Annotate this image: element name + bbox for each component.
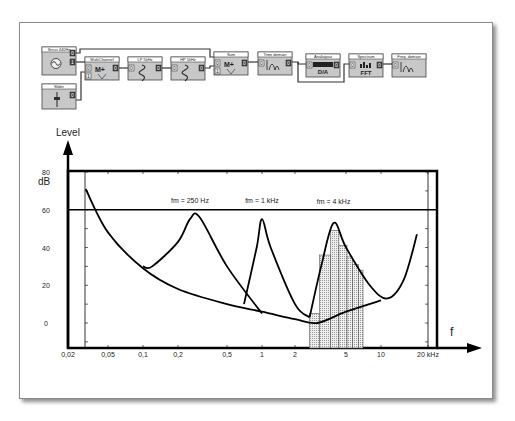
block-freq[interactable]: Freq. domain0 — [392, 54, 426, 77]
svg-text:0: 0 — [157, 65, 160, 71]
svg-text:0: 0 — [260, 60, 263, 66]
annotations: fm = 250 Hzfm = 1 kHzfm = 4 kHz — [171, 197, 351, 205]
block-title: HP 1kHz — [180, 57, 196, 62]
svg-text:0: 0 — [87, 65, 90, 71]
block-title: Slider — [54, 84, 65, 89]
annotation-label: fm = 250 Hz — [171, 197, 209, 204]
block-analog[interactable]: AnalogoutD/A00 — [306, 54, 340, 77]
y-tick-label: 40 — [42, 245, 50, 252]
svg-text:1: 1 — [87, 73, 90, 79]
svg-text:0: 0 — [394, 62, 397, 68]
block-title: Sum — [227, 52, 236, 57]
x-tick-label: 2 — [293, 351, 297, 358]
masking-chart: 806040200 0,020,050,10,20,51251020 kHz f… — [38, 127, 482, 358]
x-tick-label: 0,02 — [61, 351, 75, 358]
svg-text:0: 0 — [378, 62, 381, 68]
spectrum-bar — [310, 314, 320, 348]
x-tick-label: 0,2 — [173, 351, 183, 358]
svg-text:M+: M+ — [95, 66, 105, 73]
y-unit-label: dB — [38, 176, 51, 187]
spectrum-bar — [347, 257, 353, 348]
y-tick-label: 0 — [44, 320, 48, 327]
svg-text:0: 0 — [351, 62, 354, 68]
svg-text:M+: M+ — [224, 61, 234, 68]
block-title: LP 5kHz — [137, 57, 152, 62]
x-tick-label: 0,05 — [101, 351, 115, 358]
block-title: Sinus 440Hz — [48, 47, 71, 52]
sine-generator-icon — [51, 59, 61, 69]
annotation-label: fm = 1 kHz — [245, 197, 279, 204]
svg-text:0: 0 — [130, 65, 133, 71]
figure-canvas: Sinus 440Hz01Slider0MultiChannelM+010LP … — [0, 0, 515, 421]
x-tick-label: 20 kHz — [417, 351, 439, 358]
svg-text:0: 0 — [335, 62, 338, 68]
y-axis-label: Level — [56, 127, 80, 138]
svg-text:0: 0 — [243, 60, 246, 66]
curve-masking-fm-250-hz — [143, 213, 262, 313]
svg-text:0: 0 — [71, 92, 74, 98]
x-tick-label: 0,1 — [138, 351, 148, 358]
svg-text:0: 0 — [200, 65, 203, 71]
x-tick-label: 10 — [377, 351, 385, 358]
block-lp[interactable]: LP 5kHz00 — [128, 57, 162, 81]
spectrum-bar — [339, 246, 347, 348]
spectrum-bars — [310, 231, 363, 348]
svg-text:0: 0 — [71, 50, 74, 56]
x-axis-label: f — [450, 325, 454, 339]
svg-text:0: 0 — [216, 60, 219, 66]
svg-text:0: 0 — [173, 65, 176, 71]
block-title: Time domain — [264, 52, 287, 57]
x-tick-label: 1 — [260, 351, 264, 358]
annotation-label: fm = 4 kHz — [317, 198, 351, 205]
block-hp[interactable]: HP 1kHz00 — [171, 57, 205, 81]
svg-text:0: 0 — [308, 62, 311, 68]
y-tick-label: 80 — [42, 169, 50, 176]
svg-text:0: 0 — [287, 60, 290, 66]
block-fft[interactable]: SpectrumFFT00 — [349, 54, 383, 77]
block-diagram: Sinus 440Hz01Slider0MultiChannelM+010LP … — [42, 47, 426, 109]
block-slider[interactable]: Slider0 — [42, 84, 76, 109]
y-tick-label: 60 — [42, 207, 50, 214]
y-arrowhead-icon — [63, 140, 73, 155]
spectrum-bar — [353, 264, 359, 348]
x-tick-label: 5 — [344, 351, 348, 358]
block-sum[interactable]: SumM+010 — [214, 52, 248, 75]
svg-text:FFT: FFT — [361, 70, 372, 76]
y-ticks: 806040200 — [42, 169, 428, 342]
svg-text:1: 1 — [71, 59, 74, 65]
block-multichannel[interactable]: MultiChannelM+010 — [85, 57, 119, 80]
x-arrowhead-icon — [467, 343, 482, 353]
x-tick-label: 0,5 — [222, 351, 232, 358]
y-tick-label: 20 — [42, 282, 50, 289]
svg-text:1: 1 — [216, 68, 219, 74]
block-title: Freq. domain — [397, 54, 421, 59]
block-sine[interactable]: Sinus 440Hz01 — [42, 47, 76, 75]
svg-text:D/A: D/A — [318, 69, 329, 75]
svg-text:0: 0 — [114, 65, 117, 71]
block-time[interactable]: Time domain00 — [258, 52, 292, 75]
block-title: Spectrum — [357, 54, 375, 59]
block-title: Analogout — [314, 54, 333, 59]
spectrum-bar — [331, 231, 339, 348]
spectrum-bar — [358, 270, 363, 348]
block-title: MultiChannel — [90, 57, 113, 62]
